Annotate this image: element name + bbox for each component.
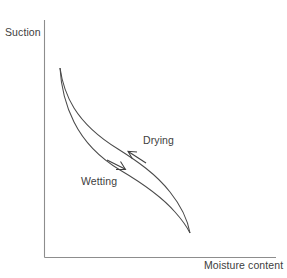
y-axis-label: Suction <box>5 26 41 38</box>
wetting-annotation-label: Wetting <box>81 175 117 187</box>
x-axis-label: Moisture content <box>204 259 283 271</box>
drying-curve <box>60 68 190 233</box>
drying-annotation-label: Drying <box>143 134 174 146</box>
swcc-hysteresis-figure: Suction Moisture content Drying Wetting <box>0 0 287 278</box>
wetting-curve <box>60 68 190 233</box>
